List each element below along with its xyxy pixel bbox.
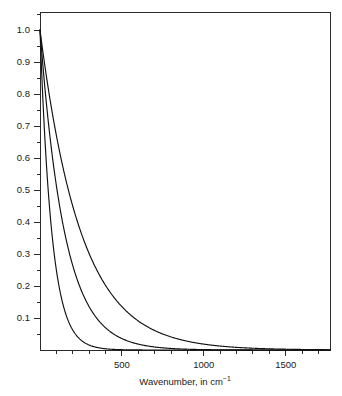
x-tick-label: 1500 — [275, 359, 296, 370]
y-tick-label: 1.0 — [17, 24, 30, 35]
chart-figure: 0.10.20.30.40.50.60.70.80.91.0 500100015… — [0, 0, 342, 396]
x-axis-tick-labels: 50010001500 — [114, 359, 296, 370]
x-tick-label: 500 — [114, 359, 130, 370]
y-tick-label: 0.4 — [17, 216, 30, 227]
y-tick-label: 0.2 — [17, 280, 30, 291]
curve-2-medium-decay — [40, 30, 330, 350]
x-axis-title-superscript: −1 — [223, 375, 231, 382]
y-tick-label: 0.7 — [17, 120, 30, 131]
data-curves — [40, 30, 330, 350]
y-tick-label: 0.6 — [17, 152, 30, 163]
y-tick-label: 0.5 — [17, 184, 30, 195]
x-tick-label: 1000 — [193, 359, 214, 370]
y-tick-label: 0.8 — [17, 88, 30, 99]
y-axis-tick-labels: 0.10.20.30.40.50.60.70.80.91.0 — [17, 24, 30, 323]
decay-curves-plot: 0.10.20.30.40.50.60.70.80.91.0 500100015… — [0, 0, 342, 396]
x-axis-title-main: Wavenumber, in cm — [139, 376, 223, 387]
curve-3-slow-decay — [40, 30, 330, 350]
plot-frame-border — [40, 12, 330, 350]
y-tick-label: 0.9 — [17, 56, 30, 67]
y-tick-label: 0.3 — [17, 248, 30, 259]
axis-ticks — [34, 14, 319, 356]
plot-frame — [40, 12, 330, 350]
x-axis-title: Wavenumber, in cm−1 — [139, 375, 231, 387]
curve-1-fast-decay — [40, 30, 330, 350]
y-tick-label: 0.1 — [17, 312, 30, 323]
